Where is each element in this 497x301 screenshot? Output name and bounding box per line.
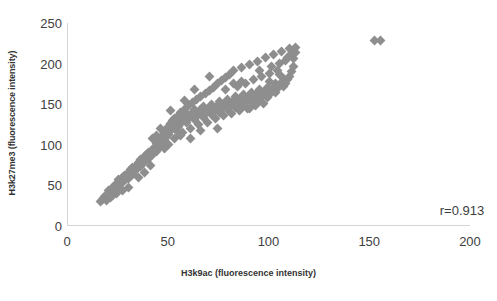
- x-tick-label: 150: [339, 234, 399, 249]
- x-tick-label: 100: [239, 234, 299, 249]
- x-tick-label: 50: [138, 234, 198, 249]
- data-point: [220, 85, 230, 95]
- data-point: [204, 72, 214, 82]
- correlation-annotation: r=0.913: [440, 203, 484, 218]
- scatter-plot-figure: H3k27me3 (fluorescence intensity) 050100…: [0, 0, 497, 301]
- data-points-layer: [68, 23, 470, 225]
- data-point: [186, 133, 196, 143]
- data-point: [196, 125, 206, 135]
- data-point: [212, 124, 222, 134]
- x-tick-label: 0: [37, 234, 97, 249]
- plot-area: [67, 23, 470, 226]
- x-axis-title: H3k9ac (fluorescence intensity): [0, 268, 497, 278]
- data-point: [375, 35, 385, 45]
- x-tick-label: 200: [440, 234, 497, 249]
